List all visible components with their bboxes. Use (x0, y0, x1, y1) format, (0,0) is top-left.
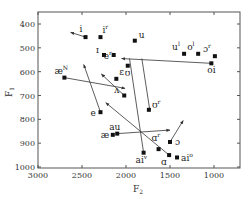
point-label: ʊ (125, 68, 131, 78)
trajectory-arrow (117, 130, 170, 134)
data-point-marker (112, 53, 116, 57)
point-label: ɔr (203, 42, 211, 54)
data-point-marker (133, 39, 137, 43)
data-point-marker (147, 108, 151, 112)
point-label: ɑ (161, 157, 167, 167)
y-tick-label: 1000 (15, 163, 35, 172)
point-label: ɔ (175, 137, 180, 147)
point-label: ul (172, 40, 180, 52)
x-tick-label: 2500 (72, 171, 92, 180)
data-point-marker (182, 52, 186, 56)
point-label: aiv (136, 153, 148, 165)
data-point-marker (196, 52, 200, 56)
x-tick-label: 1500 (160, 171, 180, 180)
y-tick-label: 800 (20, 115, 35, 124)
point-label: ɛ (119, 67, 124, 77)
x-tick-label: 2000 (116, 171, 136, 180)
x-axis-title: F2 (133, 184, 143, 195)
formant-chart: 30002500200015001000 4005006007008009001… (0, 0, 251, 198)
data-point-marker (111, 133, 115, 137)
y-tick-label: 500 (20, 44, 35, 53)
x-tick-label: 3000 (28, 171, 48, 180)
data-point-marker (84, 35, 88, 39)
data-point-marker (168, 140, 172, 144)
data-point-marker (115, 132, 119, 136)
trajectory-line (130, 59, 144, 153)
y-axis-ticks: 4005006007008009001000 (15, 20, 240, 172)
trajectory-line (142, 59, 150, 110)
data-point-marker (62, 76, 66, 80)
point-label: i (80, 24, 83, 34)
trajectory-arrow (122, 59, 212, 64)
point-label: ol (187, 40, 194, 52)
point-label: ɑr (152, 131, 161, 143)
point-label: er (104, 49, 112, 61)
data-point-marker (213, 54, 217, 58)
trajectory-arrow (84, 65, 101, 113)
point-label: ir (102, 23, 108, 35)
data-point-marker (114, 77, 118, 81)
y-axis-title: F1 (4, 87, 15, 97)
point-label: æN (54, 64, 68, 76)
data-point-marker (167, 153, 171, 157)
trajectory-arrow (71, 32, 86, 37)
data-point-marker (98, 35, 102, 39)
point-label: ʌ (113, 85, 120, 95)
data-point-marker (98, 110, 102, 114)
y-tick-label: 400 (20, 20, 35, 29)
point-label: e (90, 108, 95, 118)
data-point-marker (122, 94, 126, 98)
y-tick-label: 900 (20, 139, 35, 148)
point-label: oi (207, 65, 215, 75)
data-point-marker (175, 155, 179, 159)
point-label: u (139, 30, 145, 40)
point-label: ʊr (152, 98, 161, 110)
point-label: æ (101, 130, 109, 140)
point-label: au (109, 122, 120, 132)
data-point-marker (157, 147, 161, 151)
point-label: ɪ (96, 45, 99, 55)
y-tick-label: 600 (20, 68, 35, 77)
y-tick-label: 700 (20, 92, 35, 101)
data-points: iiruulolɔroiɪerʊæNɛeʌʊrauæɑrɔɑaioaiv (54, 23, 216, 167)
point-label: aio (181, 151, 193, 163)
x-tick-label: 1000 (204, 171, 224, 180)
